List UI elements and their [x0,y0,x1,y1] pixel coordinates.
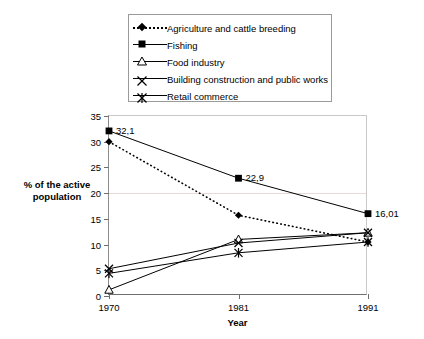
legend-item-agriculture: Agriculture and cattle breeding [133,20,331,36]
chart-legend: Agriculture and cattle breeding Fishing … [128,14,332,102]
data-series-layer [109,116,368,296]
data-label: 16,01 [375,207,399,218]
square-marker-icon [106,128,113,135]
series-line [109,131,368,214]
x-tick-label: 1981 [228,302,249,313]
legend-item-food-industry: Food industry [133,54,331,70]
diamond-marker-icon [105,138,112,145]
series-agriculture-and-cattle-breeding [105,138,371,245]
y-tick-label: 0 [96,291,101,302]
y-tick-label: 20 [90,188,101,199]
x-tick [368,294,369,299]
y-tick-label: 25 [90,162,101,173]
x-marker-icon [137,73,148,84]
x-tick-label: 1991 [357,302,378,313]
data-label: 32,1 [116,124,135,135]
triangle-marker-icon [137,56,148,66]
y-tick-label: 10 [90,239,101,250]
legend-key-retail-commerce [133,89,167,103]
y-axis-title-line2: population [14,191,100,203]
square-marker-icon [139,41,146,48]
legend-label-fishing: Fishing [167,40,198,51]
legend-label-retail-commerce: Retail commerce [167,91,238,102]
legend-key-fishing [133,38,167,52]
y-tick-label: 15 [90,213,101,224]
square-marker-icon [235,175,242,182]
diamond-marker-icon [138,23,146,31]
legend-item-fishing: Fishing [133,37,331,53]
series-fishing [106,128,372,218]
legend-key-building-construction [133,72,167,86]
y-axis-title: % of the active population [14,179,100,203]
legend-item-retail-commerce: Retail commerce [133,88,331,104]
x-axis-title: Year [108,317,367,328]
chart-figure: Agriculture and cattle breeding Fishing … [0,0,424,339]
data-label: 22,9 [246,172,265,183]
diamond-marker-icon [235,212,242,219]
legend-key-agriculture [133,21,167,35]
y-tick-label: 35 [90,111,101,122]
asterisk-marker-icon [137,90,148,101]
legend-label-building-construction: Building construction and public works [167,74,328,85]
plot-area: 05101520253035 197019811991 32,122,916,0… [108,115,367,295]
legend-label-agriculture: Agriculture and cattle breeding [167,23,296,34]
triangle-marker-icon [105,285,113,293]
series-food-industry [105,228,372,293]
legend-key-food-industry [133,55,167,69]
series-line [109,242,368,273]
series-line [109,142,368,242]
legend-item-building-construction: Building construction and public works [133,71,331,87]
x-tick-label: 1970 [98,302,119,313]
y-tick-label: 5 [96,265,101,276]
y-axis-title-line1: % of the active [14,179,100,191]
legend-label-food-industry: Food industry [167,57,225,68]
square-marker-icon [365,210,372,217]
y-tick-label: 30 [90,136,101,147]
